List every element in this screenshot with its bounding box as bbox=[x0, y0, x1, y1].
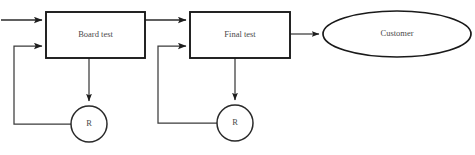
node-customer[interactable]: Customer bbox=[323, 11, 471, 57]
process-flow-diagram: Board test Final test Customer R R bbox=[0, 0, 475, 155]
final-test-label: Final test bbox=[224, 29, 256, 39]
node-final-test[interactable]: Final test bbox=[190, 12, 290, 58]
rework-board-label: R bbox=[86, 118, 92, 128]
node-board-test[interactable]: Board test bbox=[46, 12, 145, 58]
rework-final-label: R bbox=[232, 117, 238, 127]
node-rework-board[interactable]: R bbox=[71, 106, 107, 142]
customer-label: Customer bbox=[380, 28, 413, 38]
diagram-canvas: Board test Final test Customer R R bbox=[0, 0, 475, 155]
board-test-label: Board test bbox=[78, 29, 113, 39]
node-rework-final[interactable]: R bbox=[217, 105, 253, 141]
